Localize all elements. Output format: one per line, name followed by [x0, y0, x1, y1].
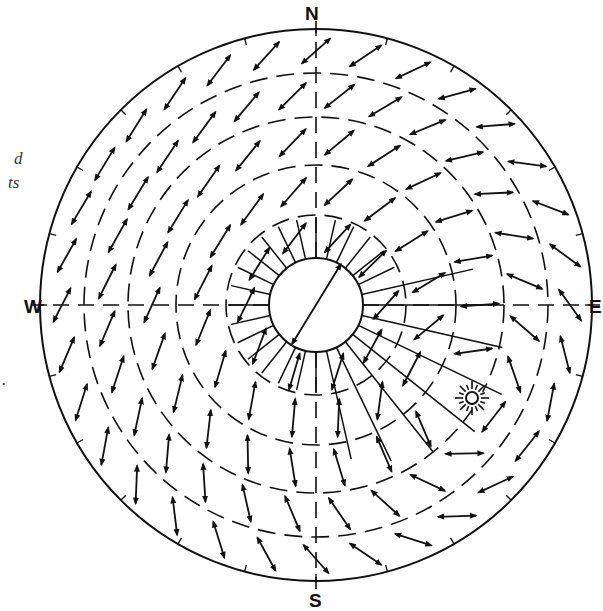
e-vector-double-arrow: [395, 534, 431, 546]
e-vector-double-arrow: [396, 231, 428, 251]
e-vector-double-arrow: [101, 427, 108, 464]
fan-line: [231, 315, 270, 324]
e-vector-double-arrow: [364, 329, 382, 362]
horizon-tick: [506, 110, 511, 115]
e-vector-double-arrow: [150, 242, 168, 275]
e-vector-double-arrow: [157, 141, 178, 173]
e-vector-double-arrow: [325, 179, 353, 205]
fan-line: [358, 267, 394, 284]
e-vector-double-arrow: [58, 239, 77, 272]
e-vector-double-arrow: [550, 244, 581, 267]
e-vector-double-arrow: [290, 449, 296, 487]
e-vector-double-arrow: [414, 315, 443, 339]
e-vector-double-arrow: [508, 356, 521, 392]
e-vector-double-arrow: [377, 437, 392, 472]
e-vector-double-arrow: [508, 161, 546, 166]
horizon-tick: [77, 440, 83, 444]
e-vector-double-arrow: [281, 178, 306, 207]
horizon-tick: [451, 66, 455, 72]
e-vector-double-arrow: [99, 265, 116, 299]
e-vector-double-arrow: [76, 384, 87, 420]
e-vector-double-arrow: [249, 382, 256, 419]
e-vector-double-arrow: [108, 219, 127, 252]
e-vector-double-arrow: [325, 130, 354, 154]
horizon-tick: [451, 538, 455, 544]
e-vector-double-arrow: [439, 89, 476, 99]
e-vector-double-arrow: [279, 129, 305, 156]
e-vector-double-arrow: [285, 496, 300, 531]
e-vector-double-arrow: [128, 177, 148, 209]
e-vector-double-arrow: [292, 399, 295, 437]
e-vector-double-arrow: [455, 349, 493, 354]
e-vector-double-arrow: [369, 97, 402, 117]
e-vector-double-arrow: [325, 224, 351, 252]
e-vector-double-arrow: [174, 375, 183, 412]
e-vector-double-arrow: [152, 333, 165, 369]
e-vector-double-arrow: [396, 62, 430, 78]
e-vector-double-arrow: [215, 351, 226, 387]
zenith-fan-lines: [229, 218, 502, 461]
fan-line: [278, 227, 295, 263]
horizon-tick: [49, 375, 56, 377]
e-vector-double-arrow: [371, 490, 399, 516]
e-vector-double-arrow: [254, 42, 279, 70]
e-vector-double-arrow: [193, 112, 216, 143]
e-vector-double-arrow: [248, 435, 249, 473]
e-vector-double-arrow: [338, 399, 340, 437]
horizon-tick: [386, 38, 388, 45]
horizon-tick: [576, 234, 583, 236]
compass-east-label: E: [589, 297, 602, 316]
cropped-caption-fragment: d: [14, 150, 23, 167]
e-vector-double-arrow: [134, 398, 142, 435]
e-vector-double-arrow: [507, 274, 542, 289]
fan-line: [248, 334, 279, 359]
e-vector-double-arrow: [257, 537, 275, 570]
e-vector-double-arrow: [164, 78, 185, 110]
e-vector-double-arrow: [207, 55, 230, 85]
e-vector-double-arrow: [241, 194, 263, 225]
horizon-tick: [178, 66, 182, 72]
e-vector-double-arrow: [136, 466, 138, 504]
compass-south-label: S: [309, 591, 322, 610]
e-vector-double-arrow: [196, 310, 210, 345]
sky-polarization-diagram: [0, 0, 603, 611]
e-vector-double-arrow: [515, 431, 539, 461]
horizon-tick: [121, 495, 126, 500]
e-vector-double-arrow: [213, 522, 224, 558]
compass-west-label: W: [24, 297, 42, 316]
e-vector-double-arrow: [510, 316, 539, 341]
e-vector-double-arrow: [533, 201, 568, 215]
e-vector-double-arrow: [377, 382, 382, 420]
e-vector-double-arrow: [446, 152, 483, 161]
e-vector-double-arrow: [325, 85, 355, 109]
fan-line: [336, 227, 353, 263]
e-vector-double-arrow: [279, 83, 306, 110]
e-vector-double-arrow: [406, 173, 440, 189]
e-vector-double-arrow: [547, 384, 554, 421]
horizon-tick: [245, 38, 247, 45]
fan-line: [248, 251, 279, 276]
e-vector-double-arrow: [478, 477, 512, 493]
fan-line: [353, 251, 384, 276]
e-vector-double-arrow: [168, 200, 188, 232]
e-vector-double-arrow: [100, 311, 115, 346]
e-vector-double-arrow: [350, 543, 381, 564]
e-vector-double-arrow: [410, 120, 445, 135]
e-vector-double-arrow: [416, 411, 431, 446]
e-vector-double-arrow: [303, 545, 328, 573]
horizon-tick: [178, 538, 182, 544]
fan-line: [362, 315, 503, 347]
e-vector-double-arrow: [475, 192, 513, 194]
fan-line: [231, 286, 270, 295]
e-vector-double-arrow: [236, 141, 260, 171]
horizon-tick: [49, 234, 56, 236]
horizon-tick: [549, 440, 555, 444]
e-vector-double-arrow: [334, 449, 345, 485]
e-vector-double-arrow: [329, 498, 350, 529]
e-vector-double-arrow: [495, 233, 533, 239]
e-vector-double-arrow: [198, 165, 220, 196]
e-vector-double-arrow: [206, 410, 210, 448]
e-vector-double-arrow: [242, 485, 250, 522]
e-vector-double-arrow: [365, 198, 395, 221]
fan-line: [262, 342, 287, 373]
